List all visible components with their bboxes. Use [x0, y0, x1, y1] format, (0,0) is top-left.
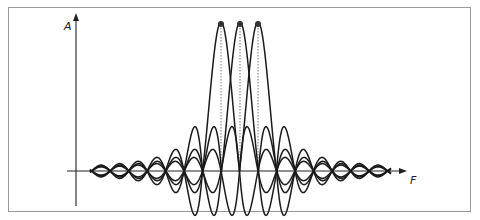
peak-marker-icon [255, 21, 261, 27]
x-axis-label: F [410, 174, 416, 187]
peak-markers [218, 21, 261, 27]
peak-marker-icon [218, 21, 224, 27]
y-axis-label: A [64, 20, 72, 33]
x-axis-arrow-icon [399, 168, 407, 174]
y-axis-arrow-icon [73, 13, 79, 21]
carrier-spectra [90, 22, 391, 215]
spectrum-diagram [0, 0, 480, 220]
carrier-3-mirror-lobes [277, 127, 392, 193]
peak-marker-icon [237, 21, 243, 27]
carrier-1-spectrum [90, 22, 391, 215]
